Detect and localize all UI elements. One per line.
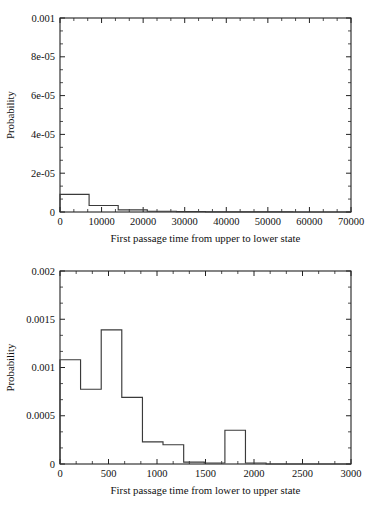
y-tick-label: 0.0005 (26, 410, 55, 421)
plot-area: 05001000150020002500300000.00050.0010.00… (0, 255, 368, 509)
y-axis-label: Probability (4, 90, 16, 139)
y-tick-label: 0 (50, 459, 55, 470)
y-tick-label: 0 (50, 207, 55, 218)
histogram-step-line (60, 194, 351, 212)
x-axis-label: First passage time from upper to lower s… (111, 232, 301, 244)
chart-first-passage-lower-to-upper: 05001000150020002500300000.00050.0010.00… (0, 255, 368, 509)
y-tick-label: 6e-05 (31, 90, 55, 101)
y-axis: 00.00050.0010.00150.002 (26, 266, 351, 470)
histogram-step-line (60, 330, 351, 464)
x-tick-label: 3000 (341, 468, 362, 479)
x-tick-label: 1000 (147, 468, 168, 479)
x-tick-label: 50000 (255, 216, 281, 227)
y-tick-label: 0.001 (31, 362, 55, 373)
y-tick-label: 0.0015 (26, 314, 55, 325)
y-tick-label: 8e-05 (31, 51, 55, 62)
plot-area: 01000020000300004000050000600007000002e-… (0, 0, 368, 255)
x-tick-label: 30000 (172, 216, 198, 227)
chart-first-passage-upper-to-lower: 01000020000300004000050000600007000002e-… (0, 0, 368, 255)
plot-frame (60, 271, 351, 464)
y-tick-label: 4e-05 (31, 129, 55, 140)
x-tick-label: 10000 (88, 216, 114, 227)
x-tick-label: 0 (57, 216, 62, 227)
x-tick-label: 2000 (244, 468, 265, 479)
y-axis-label: Probability (4, 343, 16, 392)
y-tick-label: 2e-05 (31, 168, 55, 179)
y-tick-label: 0.001 (31, 13, 55, 24)
y-axis: 02e-054e-056e-058e-050.001 (31, 13, 351, 218)
x-tick-label: 500 (101, 468, 117, 479)
x-tick-label: 2500 (292, 468, 313, 479)
y-tick-label: 0.002 (31, 266, 55, 277)
x-tick-label: 20000 (130, 216, 156, 227)
x-axis-label: First passage time from lower to upper s… (111, 484, 301, 496)
x-axis: 050010001500200025003000 (57, 271, 361, 479)
x-tick-label: 60000 (296, 216, 322, 227)
x-axis: 010000200003000040000500006000070000 (57, 18, 364, 227)
x-tick-label: 40000 (213, 216, 239, 227)
x-tick-label: 0 (57, 468, 62, 479)
x-tick-label: 1500 (195, 468, 216, 479)
plot-frame (60, 18, 351, 212)
x-tick-label: 70000 (338, 216, 364, 227)
